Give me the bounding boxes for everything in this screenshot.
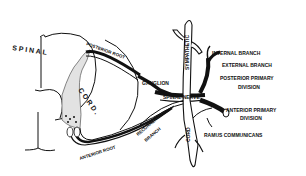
label-ramus-communicans: RAMUS COMMUNICANS [204, 132, 263, 138]
label-internal-branch: INTERNAL BRANCH [212, 50, 261, 56]
label-anterior-primary-2: DIVISION [240, 115, 262, 121]
label-anterior-root: ANTERIOR ROOT [79, 144, 117, 160]
label-sympathetic-cord: CORD [185, 127, 191, 142]
label-anterior-primary-1: ANTERIOR PRIMARY [226, 107, 277, 113]
spinal-nerve-diagram: S P I N A L C O R D . POSTERIOR ROOT GAN… [0, 0, 306, 176]
label-spinal: S P I N A L [12, 44, 48, 56]
diagram-drawing: S P I N A L C O R D . POSTERIOR ROOT GAN… [0, 0, 306, 176]
label-external-branch: EXTERNAL BRANCH [222, 62, 272, 68]
anterior-root [67, 106, 174, 145]
label-posterior-primary-2: DIVISION [238, 84, 260, 90]
label-posterior-primary-1: POSTERIOR PRIMARY [220, 75, 274, 81]
posterior-root [86, 51, 175, 96]
label-sympathetic: SYMPATHETIC [184, 35, 190, 70]
label-ganglion: GANGLION [142, 80, 169, 86]
label-spinal-nerve: SPINAL NERVE [163, 94, 200, 100]
ramus-communicans [193, 108, 212, 127]
anterior-primary-division [200, 100, 229, 117]
